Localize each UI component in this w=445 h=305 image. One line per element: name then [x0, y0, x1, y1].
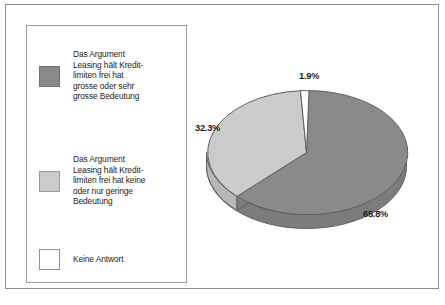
- legend-item-label: Das Argument Leasing hält Kredit- limite…: [73, 49, 143, 102]
- chart-figure: Das Argument Leasing hält Kredit- limite…: [0, 0, 445, 305]
- pie-value-label-geringe-bedeutung: 32.3%: [195, 123, 220, 133]
- pie-chart-svg: [191, 19, 441, 249]
- figure-frame: Das Argument Leasing hält Kredit- limite…: [5, 4, 439, 289]
- legend-swatch-light: [39, 171, 60, 192]
- legend-swatch-dark: [39, 66, 60, 87]
- legend-item-keine-antwort[interactable]: Keine Antwort: [39, 249, 123, 270]
- figure-caption: [8, 297, 248, 305]
- legend-item-geringe-bedeutung[interactable]: Das Argument Leasing hält Kredit- limite…: [39, 154, 145, 207]
- legend-item-label: Das Argument Leasing hält Kredit- limite…: [73, 154, 145, 207]
- legend-swatch-white: [39, 249, 60, 270]
- legend-item-label: Keine Antwort: [73, 254, 123, 265]
- chart-legend: Das Argument Leasing hält Kredit- limite…: [26, 25, 187, 283]
- pie-chart: 65.8% 32.3% 1.9%: [191, 19, 441, 249]
- pie-value-label-keine-antwort: 1.9%: [299, 71, 319, 81]
- legend-item-grosse-bedeutung[interactable]: Das Argument Leasing hält Kredit- limite…: [39, 49, 143, 102]
- pie-value-label-grosse-bedeutung: 65.8%: [363, 209, 388, 219]
